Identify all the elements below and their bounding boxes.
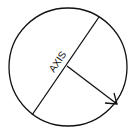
axis-line: [32, 17, 99, 115]
radius-arrow-line: [67, 66, 117, 104]
axis-label: AXIS: [47, 49, 69, 74]
circle-axis-diagram: AXIS: [0, 0, 137, 135]
